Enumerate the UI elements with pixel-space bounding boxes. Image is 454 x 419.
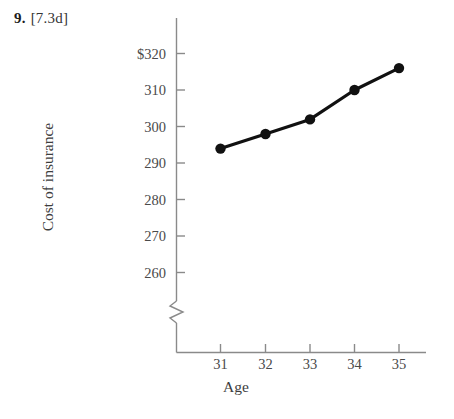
data-point-age-31 [215,143,225,153]
x-axis-ticks [221,344,400,353]
x-tick-label-35: 35 [392,356,407,373]
y-tick-label-260: 260 [144,264,166,281]
x-axis-title: Age [223,378,249,396]
y-tick-label-270: 270 [144,228,166,245]
y-axis-title: Cost of insurance [39,77,57,277]
x-tick-label-34: 34 [347,356,362,373]
data-series-line [221,68,400,149]
data-point-age-34 [349,85,359,95]
data-point-age-33 [305,114,315,124]
y-tick-label-290: 290 [144,155,166,172]
y-tick-label-320: $320 [137,45,166,62]
y-tick-label-280: 280 [144,191,166,208]
y-axis-break-icon [170,301,183,323]
x-tick-label-33: 33 [303,356,318,373]
x-tick-label-32: 32 [258,356,273,373]
data-point-age-35 [394,63,404,73]
y-tick-label-310: 310 [144,82,166,99]
x-tick-label-31: 31 [213,356,228,373]
y-tick-label-300: 300 [144,118,166,135]
data-point-age-32 [260,129,270,139]
insurance-cost-line-chart: $320 310 300 290 280 270 260 31 32 33 34… [0,0,454,419]
y-axis-ticks [177,54,186,273]
